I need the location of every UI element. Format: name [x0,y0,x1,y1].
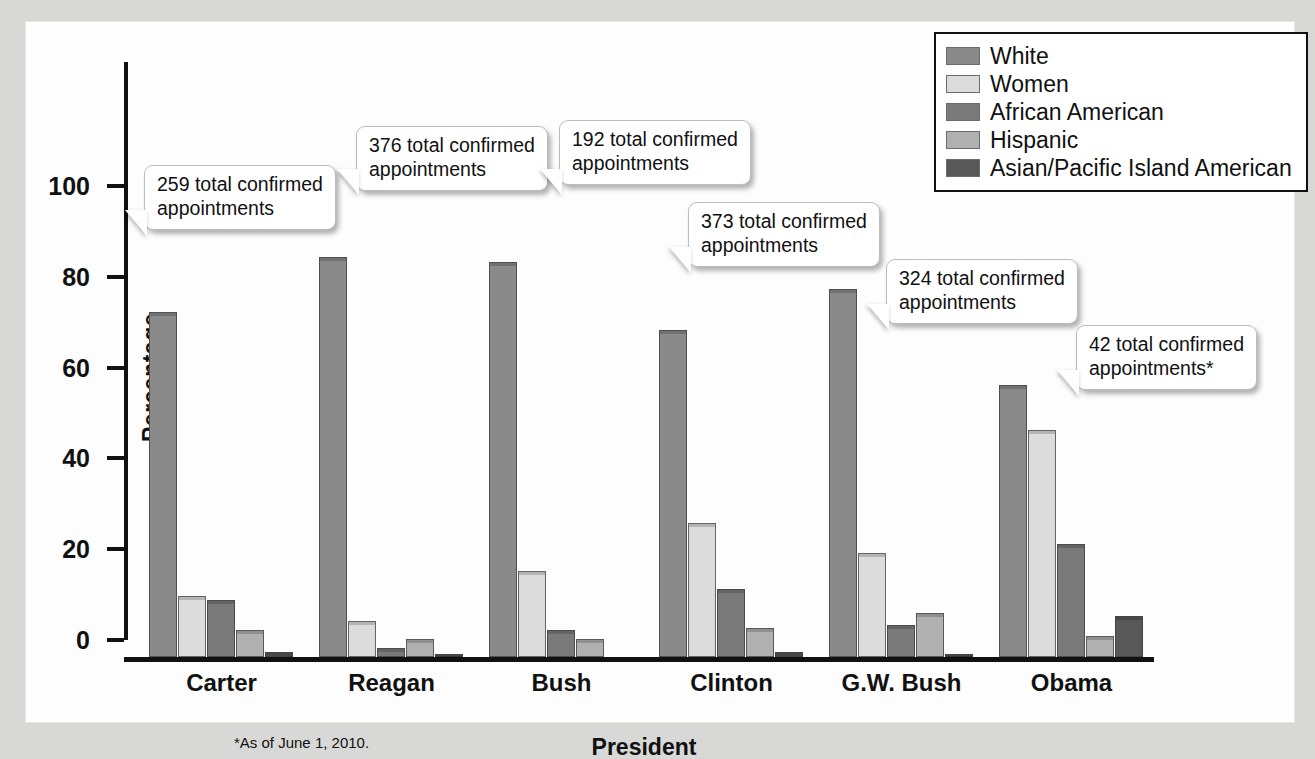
legend-swatch-icon [946,47,980,65]
legend-item-african-american[interactable]: African American [946,98,1292,126]
y-axis-line [124,62,128,640]
chart-figure: 020406080100 Percentage CarterReaganBush… [26,22,1294,722]
y-tick-label-0: 0 [34,626,90,655]
y-tick-0 [107,638,124,642]
y-tick-40 [107,456,124,460]
bar-carter-african-american [207,600,235,657]
legend-item-hispanic[interactable]: Hispanic [946,126,1292,154]
legend: WhiteWomenAfrican AmericanHispanicAsian/… [934,32,1308,192]
bar-reagan-women [348,621,376,657]
legend-label: Women [990,71,1069,98]
legend-swatch-icon [946,159,980,177]
bar-obama-white [999,385,1027,657]
callout-tail-icon [337,169,359,195]
y-tick-label-100: 100 [34,172,90,201]
bar-g-w-bush-african-american [887,625,915,657]
y-tick-label-60: 60 [34,353,90,382]
bar-reagan-asian-pacific-island-american [435,654,463,657]
bar-carter-asian-pacific-island-american [265,652,293,657]
bar-clinton-african-american [717,589,745,657]
callout-tail-icon [669,247,691,273]
x-tick-label-obama: Obama [972,669,1172,697]
legend-swatch-icon [946,131,980,149]
legend-label: Hispanic [990,127,1078,154]
callout-carter: 259 total confirmed appointments [144,165,336,230]
legend-item-white[interactable]: White [946,42,1292,70]
callout-g-w-bush: 324 total confirmed appointments [886,259,1078,324]
legend-label: Asian/Pacific Island American [990,155,1292,182]
bar-clinton-women [688,523,716,657]
bar-reagan-african-american [377,648,405,657]
bar-bush-white [489,262,517,657]
bar-bush-hispanic [576,639,604,657]
bar-bush-women [518,571,546,657]
callout-reagan: 376 total confirmed appointments [356,126,548,191]
bar-bush-african-american [547,630,575,657]
bar-reagan-hispanic [406,639,434,657]
bar-clinton-asian-pacific-island-american [775,652,803,657]
y-tick-label-20: 20 [34,535,90,564]
bar-carter-women [178,596,206,657]
y-tick-60 [107,366,124,370]
y-tick-label-40: 40 [34,444,90,473]
callout-tail-icon [1057,370,1079,396]
callout-tail-icon [540,169,562,195]
bar-g-w-bush-women [858,553,886,657]
legend-label: White [990,43,1049,70]
bar-obama-women [1028,430,1056,657]
callout-tail-icon [125,210,147,236]
legend-label: African American [990,99,1164,126]
y-tick-20 [107,547,124,551]
callout-clinton: 373 total confirmed appointments [688,202,880,267]
legend-item-asian-pacific-island-american[interactable]: Asian/Pacific Island American [946,154,1292,182]
bar-reagan-white [319,257,347,657]
bar-carter-white [149,312,177,657]
bar-obama-hispanic [1086,636,1114,657]
legend-swatch-icon [946,103,980,121]
y-tick-80 [107,275,124,279]
callout-tail-icon [867,304,889,330]
footnote: *As of June 1, 2010. [234,734,369,751]
bar-g-w-bush-hispanic [916,613,944,657]
legend-item-women[interactable]: Women [946,70,1292,98]
bar-obama-asian-pacific-island-american [1115,616,1143,657]
bar-g-w-bush-white [829,289,857,657]
bar-obama-african-american [1057,544,1085,658]
legend-swatch-icon [946,75,980,93]
bar-g-w-bush-asian-pacific-island-american [945,654,973,657]
callout-obama: 42 total confirmed appointments* [1076,325,1257,390]
callout-bush: 192 total confirmed appointments [559,120,751,185]
x-axis-line [124,657,1154,662]
bar-carter-hispanic [236,630,264,657]
y-tick-100 [107,184,124,188]
bar-clinton-white [659,330,687,657]
bar-clinton-hispanic [746,628,774,658]
y-tick-label-80: 80 [34,262,90,291]
